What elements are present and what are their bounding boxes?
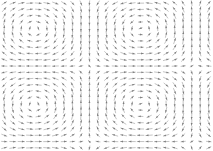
- quiver-figure: [0, 0, 213, 151]
- vector-field-plot: [0, 0, 213, 151]
